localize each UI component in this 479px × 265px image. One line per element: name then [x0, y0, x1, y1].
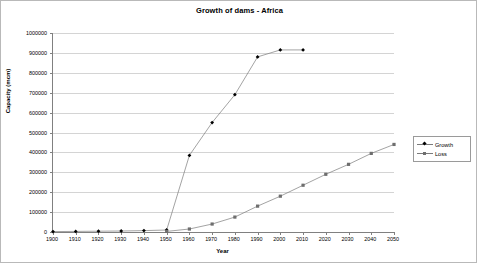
x-axis-tick — [212, 232, 213, 235]
x-axis-tick — [371, 232, 372, 235]
data-point-marker — [188, 227, 191, 230]
series-line-loss — [167, 144, 394, 231]
data-point-marker — [324, 173, 327, 176]
x-axis-tick — [235, 232, 236, 235]
data-point-marker — [74, 230, 78, 234]
chart-title: Growth of dams - Africa — [0, 6, 479, 15]
x-axis-tick — [258, 232, 259, 235]
chart-container: Growth of dams - Africa 0100000200000300… — [0, 0, 479, 265]
y-axis-tick-label: 200000 — [2, 189, 47, 195]
y-axis-tick-label: 0 — [2, 229, 47, 235]
data-point-marker — [301, 184, 304, 187]
x-axis-tick — [394, 232, 395, 235]
series-plot — [53, 33, 394, 232]
x-axis-tick — [144, 232, 145, 235]
legend-item-loss: Loss — [417, 149, 467, 158]
legend-item-growth: Growth — [417, 140, 467, 149]
data-point-marker — [97, 229, 101, 233]
data-point-marker — [392, 143, 395, 146]
data-point-marker — [142, 229, 146, 233]
data-point-marker — [256, 55, 260, 59]
y-axis-tick-label: 100000 — [2, 209, 47, 215]
data-point-marker — [119, 229, 123, 233]
data-point-marker — [233, 215, 236, 218]
x-axis-tick — [280, 232, 281, 235]
y-axis-tick-label: 300000 — [2, 169, 47, 175]
data-point-marker — [165, 230, 168, 233]
x-axis-tick — [326, 232, 327, 235]
legend-label-growth: Growth — [433, 142, 453, 148]
x-axis-tick — [349, 232, 350, 235]
x-axis-title: Year — [52, 248, 393, 254]
series-line-growth — [53, 50, 303, 232]
data-point-marker — [301, 48, 305, 52]
data-point-marker — [256, 205, 259, 208]
data-point-marker — [211, 222, 214, 225]
data-point-marker — [278, 48, 282, 52]
data-point-marker — [370, 152, 373, 155]
legend-swatch-square-icon — [417, 149, 433, 158]
legend-label-loss: Loss — [433, 151, 447, 157]
data-point-marker — [279, 195, 282, 198]
x-axis-tick — [303, 232, 304, 235]
plot-area — [52, 33, 394, 233]
chart-legend: Growth Loss — [413, 136, 471, 162]
y-axis-title: Capacity (mcm) — [5, 21, 11, 161]
x-axis-tick-label: 2050 — [373, 236, 413, 242]
x-axis-tick — [189, 232, 190, 235]
legend-swatch-diamond-icon — [417, 140, 433, 149]
data-point-marker — [347, 163, 350, 166]
